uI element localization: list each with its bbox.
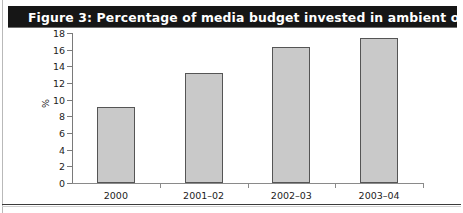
y-tick-label: 12 bbox=[53, 78, 65, 89]
y-axis-title: % bbox=[40, 99, 51, 108]
x-tick-label: 2003–04 bbox=[359, 190, 400, 201]
x-tick-mark bbox=[423, 183, 424, 188]
y-tick-mark bbox=[67, 33, 72, 34]
plot-area: 024681012141618 bbox=[72, 33, 423, 183]
y-tick-mark bbox=[67, 100, 72, 101]
figure-title-text: Figure 3: Percentage of media budget inv… bbox=[28, 9, 463, 24]
bottom-rule bbox=[2, 204, 461, 205]
y-tick-mark bbox=[67, 166, 72, 167]
y-tick-mark bbox=[67, 83, 72, 84]
y-tick-label: 16 bbox=[53, 44, 65, 55]
y-tick-label: 18 bbox=[53, 28, 65, 39]
y-tick-label: 10 bbox=[53, 94, 65, 105]
x-tick-label: 2001–02 bbox=[183, 190, 224, 201]
y-tick-label: 8 bbox=[59, 111, 65, 122]
page-left-rule bbox=[2, 0, 3, 213]
bar bbox=[97, 107, 135, 183]
y-tick-mark bbox=[67, 150, 72, 151]
x-tick-mark bbox=[160, 183, 161, 188]
y-tick-mark bbox=[67, 183, 72, 184]
figure-title-banner: Figure 3: Percentage of media budget inv… bbox=[8, 6, 457, 27]
y-tick-mark bbox=[67, 116, 72, 117]
y-tick-label: 2 bbox=[59, 161, 65, 172]
y-tick-label: 14 bbox=[53, 61, 65, 72]
y-tick-label: 4 bbox=[59, 144, 65, 155]
bottom-rule-shadow bbox=[2, 206, 461, 207]
y-tick-mark bbox=[67, 66, 72, 67]
bar bbox=[360, 38, 398, 183]
y-tick-label: 6 bbox=[59, 128, 65, 139]
x-tick-label: 2002–03 bbox=[271, 190, 312, 201]
x-tick-mark bbox=[248, 183, 249, 188]
y-tick-label: 0 bbox=[59, 178, 65, 189]
bar bbox=[272, 47, 310, 183]
figure-container: Figure 3: Percentage of media budget inv… bbox=[0, 0, 463, 213]
x-tick-mark bbox=[335, 183, 336, 188]
x-tick-label: 2000 bbox=[104, 190, 128, 201]
y-tick-mark bbox=[67, 50, 72, 51]
bar bbox=[185, 73, 223, 183]
y-tick-mark bbox=[67, 133, 72, 134]
